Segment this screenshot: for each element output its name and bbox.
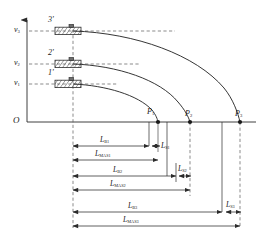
launcher-block-3 [55,24,81,34]
launcher-label-3: 3' [48,16,54,24]
launcher-label-2: 2' [48,49,54,57]
dimension-label-LS1: LS1 [161,142,170,150]
dimension-label-LB2: LB2 [113,166,122,174]
trajectory-curve-1 [73,84,158,122]
velocity-label-v1: v1 [14,79,20,87]
launcher-label-1: 1' [48,69,54,77]
velocity-label-v3: v3 [14,26,20,34]
impact-dot-p3 [238,120,242,124]
dimension-label-LB3: LB3 [128,202,137,210]
diagram-svg [0,0,258,235]
dimension-label-LS2: LS2 [178,165,187,173]
dimension-label-LB1: LB1 [100,136,109,144]
vertical-reference-lines [73,24,240,228]
impact-dot-p2 [188,120,192,124]
launcher-blocks [55,24,81,87]
trajectory-curves [73,31,240,122]
origin-label: O [13,116,20,125]
trajectory-curve-3 [73,31,240,122]
dimension-label-LS3: LS3 [226,201,235,209]
impact-point-label-p2: P2 [185,110,192,118]
figure-canvas: O v1 v2 v3 1' 2' 3' P1 P2 P3 LB1 LS1 LMA… [0,0,258,235]
dimension-label-LMAS3: LMAS3 [123,216,139,224]
dimension-label-LMAS1: LMAS1 [95,150,111,158]
velocity-label-v2: v2 [14,59,20,67]
axis-group [27,20,256,122]
launcher-block-2 [55,57,81,67]
impact-point-label-p3: P3 [235,110,242,118]
dimension-row-1 [73,122,160,152]
trajectory-curve-2 [73,64,190,122]
impact-point-label-p1: P1 [147,108,154,116]
dimension-label-LMAS2: LMAS2 [110,180,126,188]
launcher-block-1 [55,77,81,87]
